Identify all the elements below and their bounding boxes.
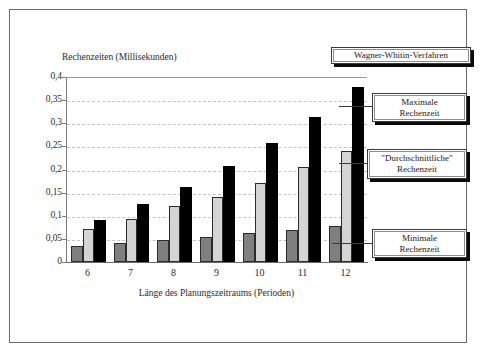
y-axis-tick-label: 0,2	[26, 165, 62, 175]
callout-durchschnittliche-text: "Durchschnittliche" Rechenzeit	[378, 153, 455, 175]
callout-box: Wagner-Whitin-Verfahren	[331, 47, 471, 64]
y-axis-tick-mark	[62, 216, 66, 217]
x-axis-title: Länge des Planungszeitraums (Perioden)	[66, 287, 367, 299]
y-axis-tick-mark	[62, 193, 66, 194]
y-axis-title: Rechenzeiten (Millisekunden)	[62, 51, 177, 63]
callout-title-text: Wagner-Whitin-Verfahren	[351, 50, 451, 61]
bar-cluster	[286, 77, 321, 262]
plot-area	[66, 77, 367, 262]
bar	[266, 143, 278, 262]
leader-line-durchschnittliche	[339, 163, 367, 164]
leader-line-maximale	[339, 106, 372, 107]
bar	[341, 151, 353, 262]
callout-maximale-text: Maximale Rechenzeit	[397, 97, 443, 119]
bar-cluster	[157, 77, 192, 262]
callout-box: Minimale Rechenzeit	[372, 229, 467, 258]
callout-box: "Durchschnittliche" Rechenzeit	[367, 149, 467, 179]
bar	[309, 117, 321, 262]
y-axis-tick-label: 0,35	[26, 95, 62, 105]
bar	[157, 240, 169, 262]
y-axis-tick-label: 0	[26, 257, 62, 267]
y-axis-tick-mark	[62, 170, 66, 171]
x-axis-line	[66, 262, 368, 263]
y-axis-tick-mark	[62, 239, 66, 240]
y-axis-tick-mark	[62, 77, 66, 78]
bar	[255, 183, 267, 262]
x-axis-tick-labels: 6789101112	[66, 267, 367, 283]
x-axis-tick-label: 10	[240, 267, 280, 279]
bar	[223, 166, 235, 262]
bar-cluster	[329, 77, 364, 262]
bar-cluster	[243, 77, 278, 262]
x-axis-tick-label: 6	[68, 267, 108, 279]
bar-cluster	[71, 77, 106, 262]
bar-cluster	[200, 77, 235, 262]
bar	[83, 229, 95, 262]
bar	[352, 87, 364, 262]
x-axis-tick-label: 7	[111, 267, 151, 279]
bar-cluster	[114, 77, 149, 262]
chart-figure: Rechenzeiten (Millisekunden) 0,40,350,30…	[0, 0, 480, 364]
x-axis-tick-label: 9	[197, 267, 237, 279]
y-axis-tick-labels: 0,40,350,30,250,20,150,10,050	[22, 77, 62, 262]
callout-durchschnittliche: "Durchschnittliche" Rechenzeit	[367, 149, 467, 179]
y-axis-tick-label: 0,15	[26, 188, 62, 198]
callout-minimale: Minimale Rechenzeit	[372, 229, 467, 258]
bar	[126, 219, 138, 262]
bar	[180, 187, 192, 262]
bar	[114, 243, 126, 262]
bar	[200, 237, 212, 262]
callout-maximale: Maximale Rechenzeit	[372, 93, 467, 122]
y-axis-tick-mark	[62, 146, 66, 147]
y-axis-tick-label: 0,1	[26, 211, 62, 221]
callout-box: Maximale Rechenzeit	[372, 93, 467, 122]
y-axis-tick-label: 0,05	[26, 234, 62, 244]
leader-line-minimale	[332, 243, 372, 244]
bar	[169, 206, 181, 262]
bar	[94, 220, 106, 262]
bar	[298, 167, 310, 262]
y-axis-tick-label: 0,3	[26, 118, 62, 128]
y-axis-tick-mark	[62, 123, 66, 124]
x-axis-tick-label: 11	[283, 267, 323, 279]
y-axis-tick-label: 0,4	[26, 72, 62, 82]
y-axis-tick-mark	[62, 100, 66, 101]
x-axis-tick-label: 12	[326, 267, 366, 279]
bar	[243, 233, 255, 262]
bar	[286, 230, 298, 262]
callout-title: Wagner-Whitin-Verfahren	[331, 47, 471, 64]
y-axis-tick-label: 0,25	[26, 141, 62, 151]
bar	[137, 204, 149, 262]
bar	[212, 197, 224, 262]
x-axis-tick-label: 8	[154, 267, 194, 279]
callout-minimale-text: Minimale Rechenzeit	[397, 233, 443, 255]
y-axis-tick-mark	[62, 262, 66, 263]
bar	[71, 246, 83, 262]
